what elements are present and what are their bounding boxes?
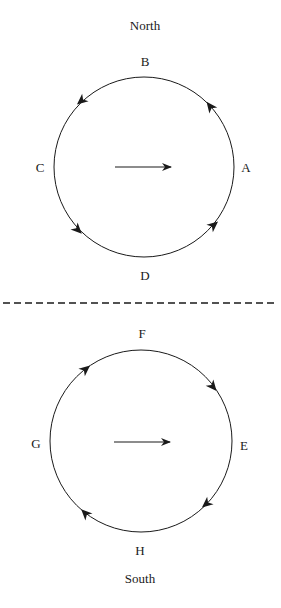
north-circle [54,77,234,257]
point-label-b: B [141,54,150,70]
point-label-e: E [240,438,248,454]
point-label-c: C [36,160,45,176]
point-label-f: F [138,326,145,342]
point-label-g: G [31,436,40,452]
circulation-arrow-icon [78,362,93,377]
north-heading: North [130,18,160,34]
point-label-d: D [140,268,149,284]
circulation-arrow-icon [71,223,86,238]
point-label-h: H [135,543,144,559]
circulation-arrow-icon [74,94,89,109]
diagram-canvas [0,0,281,608]
south-heading: South [125,571,155,587]
point-label-a: A [241,160,250,176]
south-circle [50,350,232,532]
